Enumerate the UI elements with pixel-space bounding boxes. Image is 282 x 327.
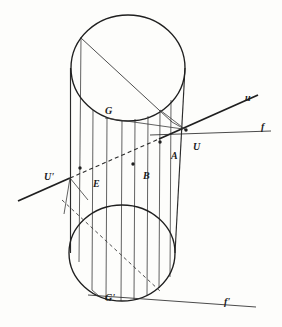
generator-line — [170, 100, 171, 277]
point-U — [184, 128, 187, 131]
generator-line — [159, 110, 160, 288]
top-chord — [81, 38, 172, 122]
figure-canvas — [0, 0, 282, 327]
generator-line — [147, 116, 148, 295]
line-u — [18, 95, 258, 201]
label-B: B — [143, 171, 150, 181]
label-A: A — [171, 151, 178, 161]
generator-line — [92, 110, 93, 290]
label-G-prime: G' — [105, 293, 115, 303]
point-E — [78, 166, 81, 169]
label-f: f — [261, 122, 264, 132]
auxiliary-rays — [64, 110, 186, 296]
generator-line — [134, 119, 135, 299]
generator-lines — [79, 37, 171, 301]
label-U-prime: U' — [44, 172, 54, 182]
label-u: u — [245, 93, 251, 103]
generator-line — [79, 37, 81, 262]
aux-ray-Uprime-right — [70, 178, 88, 200]
geometry-figure: u f U A B E U' G G' f' — [0, 0, 282, 327]
label-E: E — [93, 179, 100, 189]
label-G: G — [105, 106, 112, 116]
generator-line — [121, 120, 122, 301]
aux-ray-Uprime-down — [64, 178, 70, 214]
line-f — [150, 131, 271, 135]
generator-line — [106, 118, 107, 300]
top-circle — [71, 15, 185, 121]
label-U: U — [193, 142, 200, 152]
line-u-right-visible — [159, 95, 258, 139]
label-f-prime: f' — [224, 297, 230, 307]
point-B — [131, 162, 134, 165]
cylinder-silhouette — [71, 68, 186, 253]
point-A — [158, 140, 161, 143]
